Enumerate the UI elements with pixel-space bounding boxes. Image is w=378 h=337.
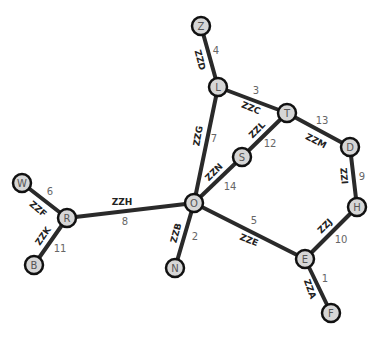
- edge-zze: [194, 203, 305, 259]
- node-label: N: [171, 263, 178, 274]
- node-label: B: [31, 260, 38, 271]
- node-label: S: [239, 152, 245, 163]
- node-label: E: [302, 254, 308, 265]
- edge-weight: 12: [264, 138, 277, 149]
- node-l: L: [209, 78, 227, 96]
- edge-weight: 1: [322, 273, 328, 284]
- graph-canvas: ZZD4ZZC3ZZM13ZZI9ZZJ10ZZA1ZZE5ZZG7ZZN14Z…: [0, 0, 378, 337]
- node-label: W: [17, 178, 27, 189]
- edge-label: ZZI: [338, 167, 349, 184]
- node-label: Z: [198, 21, 205, 32]
- node-w: W: [13, 174, 31, 192]
- edge-zzj: [305, 207, 357, 259]
- node-s: S: [233, 148, 251, 166]
- edges-layer: [22, 26, 357, 313]
- edge-weight: 14: [224, 181, 237, 192]
- node-t: T: [278, 104, 296, 122]
- edge-label: ZZD: [193, 49, 208, 71]
- node-r: R: [58, 209, 76, 227]
- edge-weight: 2: [192, 231, 198, 242]
- edge-weight: 9: [359, 171, 365, 182]
- edge-weight: 3: [253, 85, 259, 96]
- edge-weight: 6: [47, 186, 53, 197]
- edge-weight: 11: [54, 243, 67, 254]
- edge-weight: 4: [213, 45, 219, 56]
- edge-label: ZZG: [191, 125, 204, 147]
- edge-weight: 10: [335, 234, 348, 245]
- edge-weight: 5: [251, 215, 257, 226]
- edge-label: ZZN: [203, 161, 225, 183]
- node-label: F: [328, 308, 334, 319]
- node-d: D: [341, 138, 359, 156]
- node-f: F: [322, 304, 340, 322]
- node-o: O: [185, 194, 203, 212]
- edge-label: ZZH: [112, 197, 133, 207]
- edge-weight: 8: [122, 216, 128, 227]
- node-z: Z: [192, 17, 210, 35]
- node-label: H: [353, 202, 361, 213]
- node-label: D: [346, 142, 354, 153]
- node-label: O: [190, 198, 198, 209]
- edge-weight: 13: [316, 115, 329, 126]
- edge-weight: 7: [211, 133, 217, 144]
- node-b: B: [25, 256, 43, 274]
- node-label: R: [64, 213, 71, 224]
- node-h: H: [348, 198, 366, 216]
- node-label: T: [283, 108, 291, 119]
- node-n: N: [166, 259, 184, 277]
- node-e: E: [296, 250, 314, 268]
- node-label: L: [215, 82, 221, 93]
